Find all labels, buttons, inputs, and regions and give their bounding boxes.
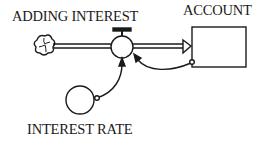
flow-valve[interactable] <box>111 28 133 58</box>
stock-label: ACCOUNT <box>183 3 252 18</box>
cloud-icon <box>34 35 55 55</box>
diagram-canvas: ADDING INTEREST ACCOUNT INTEREST RATE <box>0 0 268 143</box>
stock-account-box[interactable] <box>192 27 246 67</box>
converter-label: INTEREST RATE <box>27 122 132 137</box>
connector-account-to-flow <box>134 54 194 69</box>
converter-interest-rate[interactable] <box>66 86 94 114</box>
flow-label: ADDING INTEREST <box>12 9 138 24</box>
flow-pipe-inflow <box>53 44 111 48</box>
flow-pipe-outflow <box>133 40 191 53</box>
connector-rate-to-flow <box>95 58 125 100</box>
